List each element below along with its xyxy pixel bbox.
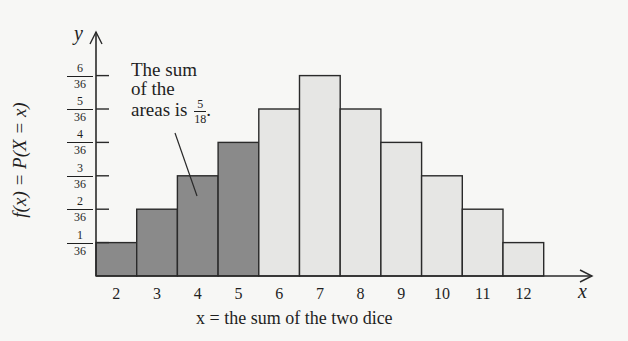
annotation-line-3-text: areas is — [131, 99, 187, 120]
x-tick-label-7: 7 — [305, 285, 335, 303]
y-tick-numerator: 2 — [67, 195, 93, 210]
y-tick-numerator: 1 — [67, 229, 93, 244]
y-axis-label: f(x) = P(X = x) — [9, 102, 31, 217]
bar-11 — [462, 209, 503, 276]
y-axis-letter: y — [74, 22, 83, 45]
x-tick-label-10: 10 — [427, 285, 457, 303]
bar-2 — [96, 243, 137, 276]
x-tick-label-4: 4 — [183, 285, 213, 303]
y-tick-denominator: 36 — [67, 77, 93, 91]
bar-3 — [137, 209, 178, 276]
y-tick-marks — [96, 76, 109, 243]
x-axis-label: x = the sum of the two dice — [196, 308, 393, 329]
y-tick-denominator: 36 — [67, 210, 93, 224]
y-tick-label: 136 — [67, 229, 93, 258]
annotation-fraction-denominator: 18 — [194, 112, 206, 125]
annotation-line-2: of the — [131, 79, 211, 98]
x-tick-label-12: 12 — [508, 285, 538, 303]
x-tick-label-8: 8 — [346, 285, 376, 303]
y-tick-label: 236 — [67, 195, 93, 224]
bar-7 — [300, 76, 341, 276]
bar-4 — [177, 176, 218, 276]
bar-8 — [340, 109, 381, 276]
annotation-line-3: areas is 5 18 . — [131, 98, 211, 125]
y-tick-numerator: 6 — [67, 62, 93, 77]
bar-9 — [381, 142, 422, 276]
x-tick-label-3: 3 — [142, 285, 172, 303]
x-tick-label-11: 11 — [468, 285, 498, 303]
bar-5 — [218, 142, 259, 276]
y-tick-denominator: 36 — [67, 244, 93, 258]
y-tick-numerator: 3 — [67, 162, 93, 177]
y-tick-numerator: 4 — [67, 128, 93, 143]
y-tick-denominator: 36 — [67, 110, 93, 124]
annotation-period: . — [206, 99, 211, 120]
y-tick-label: 536 — [67, 95, 93, 124]
x-tick-label-9: 9 — [386, 285, 416, 303]
y-tick-denominator: 36 — [67, 143, 93, 157]
annotation-fraction: 5 18 — [194, 98, 206, 125]
x-tick-label-5: 5 — [224, 285, 254, 303]
x-axis-letter: x — [578, 280, 587, 303]
x-tick-label-2: 2 — [101, 285, 131, 303]
y-tick-denominator: 36 — [67, 177, 93, 191]
y-axis-label-text: f(x) = P(X = x) — [9, 102, 30, 217]
y-tick-label: 436 — [67, 128, 93, 157]
bar-10 — [422, 176, 463, 276]
annotation-fraction-numerator: 5 — [194, 98, 206, 112]
annotation-line-1: The sum — [131, 60, 211, 79]
bar-6 — [259, 109, 300, 276]
y-tick-numerator: 5 — [67, 95, 93, 110]
x-tick-label-6: 6 — [264, 285, 294, 303]
area-sum-annotation: The sum of the areas is 5 18 . — [131, 60, 211, 125]
y-tick-label: 336 — [67, 162, 93, 191]
bar-12 — [503, 243, 544, 276]
y-tick-label: 636 — [67, 62, 93, 91]
